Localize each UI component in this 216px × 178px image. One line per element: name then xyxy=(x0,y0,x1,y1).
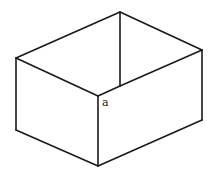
vertex-label-a: a xyxy=(102,97,109,108)
edge-bottom-right xyxy=(98,120,202,166)
edge-top-back-left xyxy=(16,12,120,58)
edge-left-top-to-front xyxy=(16,58,98,96)
edge-bottom-left xyxy=(16,130,98,166)
edge-top-back-right xyxy=(120,12,202,50)
edge-inner-right xyxy=(120,50,202,86)
open-box-diagram xyxy=(0,0,216,178)
edge-front-to-inner xyxy=(98,86,120,96)
